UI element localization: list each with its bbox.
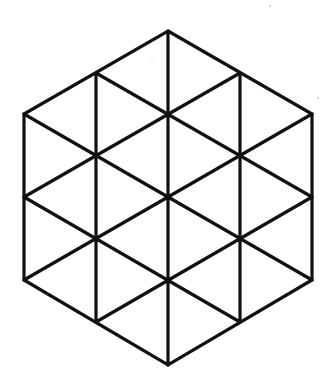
- paper-specks: [151, 5, 319, 99]
- diagonal-up-line-1: [24, 73, 240, 197]
- diagonal-down-line-1: [96, 73, 312, 197]
- hexagon-triangle-grid-diagram: [0, 0, 335, 391]
